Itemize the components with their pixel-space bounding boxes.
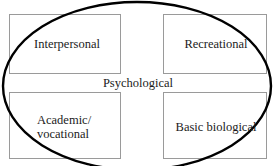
quadrant-label-interpersonal: Interpersonal	[27, 37, 107, 51]
quadrant-label-recreational: Recreational	[175, 37, 257, 51]
quadrant-label-academic-vocational: Academic/ vocational	[37, 113, 115, 141]
quadrant-label-basic-biological: Basic biological	[172, 120, 260, 134]
ellipse-label-psychological: Psychological	[0, 76, 276, 90]
quadrant-diagram: Interpersonal Recreational Academic/ voc…	[0, 0, 276, 166]
